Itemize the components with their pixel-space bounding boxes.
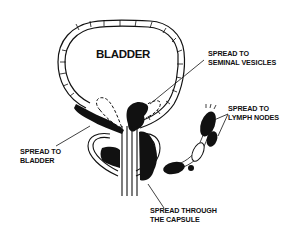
bladder-wall <box>58 20 185 128</box>
lymph-node-small <box>188 165 194 171</box>
label-seminal-vesicles: SPREAD TO SEMINAL VESICLES <box>208 49 276 67</box>
label-capsule: SPREAD THROUGH THE CAPSULE <box>150 206 217 224</box>
leader-capsule <box>148 184 164 208</box>
bladder-label: BLADDER <box>96 48 150 60</box>
label-lymph-nodes: SPREAD TO LYMPH NODES <box>228 104 279 122</box>
tumor-prostate-left <box>101 147 121 168</box>
lymph-node-empty <box>189 141 207 163</box>
leader-bladder <box>56 126 90 146</box>
tumor-through-capsule <box>139 132 157 181</box>
label-bladder-spread: SPREAD TO BLADDER <box>20 147 61 165</box>
urethra <box>122 126 137 196</box>
prostate-cancer-spread-diagram: BLADDER SPREAD TO SEMINAL VESICLES SPREA… <box>0 0 300 242</box>
